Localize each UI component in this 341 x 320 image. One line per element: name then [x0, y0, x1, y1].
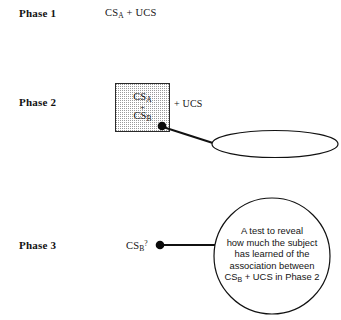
compound-box-cs-b-prefix: CS [134, 110, 147, 121]
callout-line-5-prefix: CS [224, 271, 237, 282]
compound-stimulus-box: CSA + CSB [115, 83, 170, 132]
callout-line-2: how much the subject [218, 237, 326, 249]
compound-stimulus-callout-label: Compound stimulus [218, 136, 332, 148]
figure-canvas: Phase 1 CSA + UCS Phase 2 CSA + CSB + UC… [0, 0, 341, 320]
callout-line-4: association between [218, 260, 326, 272]
phase-3-cs-query: ? [144, 239, 148, 248]
phase-2-label: Phase 2 [19, 96, 56, 108]
compound-box-cs-a-subscript: A [146, 96, 151, 105]
compound-box-cs-b-subscript: B [146, 114, 151, 123]
callout-line-3: has learned of the [218, 248, 326, 260]
phase-3-cs-prefix: CS [126, 240, 139, 251]
phase-3-callout-text: A test to reveal how much the subject ha… [218, 225, 326, 286]
phase-1-cs-suffix: + UCS [124, 7, 157, 18]
callout-line-5-suffix: + UCS in Phase 2 [242, 271, 319, 282]
phase-2-ucs-text: + UCS [174, 98, 203, 109]
compound-box-cs-b: CSB [134, 111, 152, 123]
compound-box-cs-a-prefix: CS [133, 91, 146, 102]
phase-1-label: Phase 1 [19, 7, 56, 19]
phase-1-expression: CSA + UCS [105, 7, 156, 20]
callout-line-1: A test to reveal [218, 225, 326, 237]
phase-3-expression: CSB? [126, 239, 148, 253]
phase-2-leader-line [163, 127, 216, 144]
phase-3-label: Phase 3 [19, 239, 56, 251]
compound-stimulus-box-contents: CSA + CSB [116, 84, 169, 131]
callout-line-5: CSB + UCS in Phase 2 [218, 271, 326, 286]
phase-3-anchor-dot [156, 241, 165, 250]
phase-1-cs-prefix: CS [105, 7, 118, 18]
